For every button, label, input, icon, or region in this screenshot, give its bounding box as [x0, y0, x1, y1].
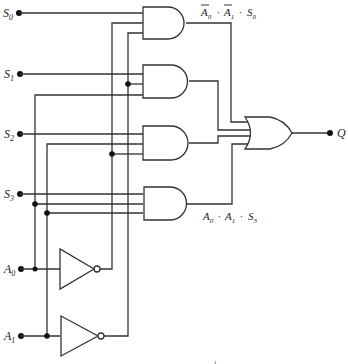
or-gate — [245, 117, 292, 149]
terminal-q — [327, 130, 333, 136]
svg-text:S3: S3 — [248, 210, 258, 225]
inversion-bubble-a1 — [98, 333, 104, 339]
svg-text:·: · — [240, 211, 243, 222]
label-a0: A0 — [3, 262, 15, 278]
svg-text:A0: A0 — [202, 210, 214, 225]
wires — [19, 13, 330, 336]
input-labels: S0 S1 S2 S3 A0 A1 — [3, 6, 15, 345]
mux-circuit-diagram: S0 S1 S2 S3 A0 A1 — [0, 0, 348, 364]
input-terminals — [16, 10, 24, 339]
label-s2: S2 — [4, 127, 14, 143]
svg-text:·: · — [217, 7, 220, 18]
and-gate-3 — [143, 126, 188, 160]
and-gate-2 — [143, 65, 188, 98]
svg-text:A0: A0 — [200, 6, 212, 21]
not-gate-a1 — [61, 316, 104, 356]
not-gate-a0 — [60, 249, 100, 289]
annotation-top: A0 · A1 · S0 — [200, 5, 257, 21]
label-a1: A1 — [3, 329, 15, 345]
svg-text:S0: S0 — [247, 6, 257, 21]
inversion-bubble-a0 — [94, 266, 100, 272]
svg-text:·: · — [218, 211, 221, 222]
svg-text:·: · — [239, 7, 242, 18]
label-s0: S0 — [3, 6, 13, 22]
and-gate-4 — [144, 187, 187, 220]
footer-mark: 1 — [214, 360, 217, 364]
label-s3: S3 — [4, 187, 14, 203]
svg-text:A1: A1 — [223, 6, 234, 21]
svg-text:A1: A1 — [224, 210, 235, 225]
and-gate-1 — [143, 7, 184, 39]
label-s1: S1 — [4, 67, 14, 83]
label-q: Q — [337, 126, 346, 140]
annotation-bottom: A0 · A1 · S3 — [202, 210, 258, 225]
